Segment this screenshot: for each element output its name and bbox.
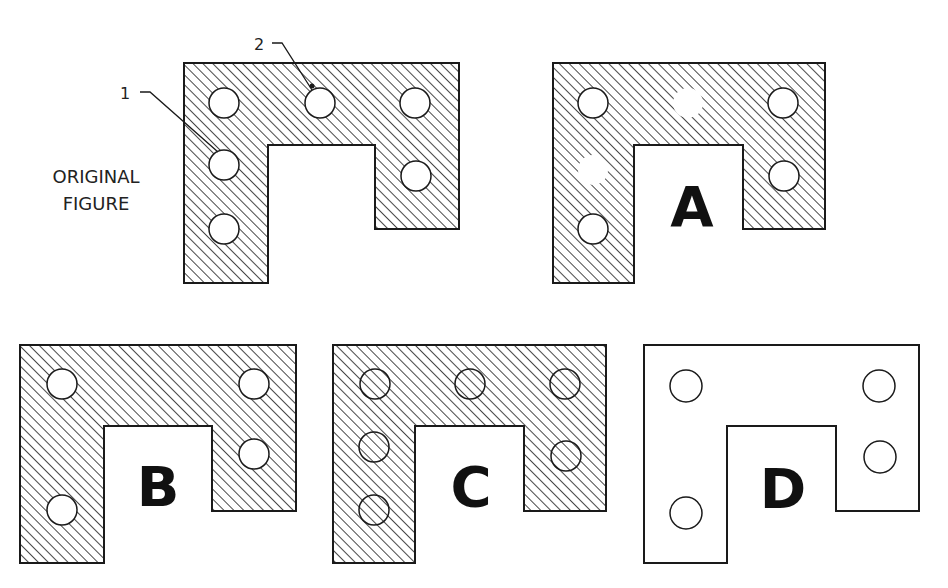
option-a-figure[interactable] <box>553 63 825 283</box>
option-d-figure[interactable] <box>644 345 919 563</box>
original-caption-line1: ORIGINAL <box>52 166 139 187</box>
option-d-letter: D <box>760 456 806 521</box>
original-figure <box>140 43 459 283</box>
original-caption-line2: FIGURE <box>63 193 130 214</box>
option-b-letter: B <box>137 454 180 519</box>
callout-1-label: 1 <box>120 84 130 103</box>
option-c-letter: C <box>450 454 491 519</box>
option-a-letter: A <box>670 174 714 239</box>
callout-2-label: 2 <box>254 35 264 54</box>
diagram-canvas: 1 2 ORIGINAL FIGURE A B <box>0 0 948 588</box>
